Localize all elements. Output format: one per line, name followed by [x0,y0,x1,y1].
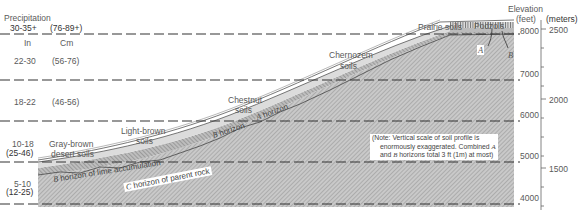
feet-tick-7000: 7000 [520,69,539,79]
vertical-scale-note: (Note: Vertical scale of soil profile is… [370,134,498,160]
chernozem-soils-label: soils [340,61,357,71]
feet-tick-5000: 5000 [520,151,539,161]
prairie-soils-label: Prairie soils [418,22,462,32]
precip-band-2-in: 22-30 [14,56,36,66]
precip-band-3-cm: (46-56) [52,97,79,107]
precip-band-1-in: 30-35+ [10,23,37,33]
podzols-label: Podzols [474,21,504,31]
meters-title: (meters) [546,14,578,24]
precip-band-5-cm: (12-25) [6,187,33,197]
precip-band-3-in: 18-22 [14,97,36,107]
podzol-b-label: B [508,50,513,60]
elevation-unit: (feet) [516,14,536,24]
desert-soils-label: desert soils [51,149,94,159]
feet-tick-8000: 8000 [520,26,539,36]
soil-profile-diagram [0,0,588,217]
light-brown-soil-label: Light-brown [121,126,165,136]
meter-tick-2500: 2500 [549,25,568,35]
chernozem-soil-label: Chernozem [329,50,373,60]
unit-cm-label: Cm [60,38,73,48]
feet-tick-4000: 4000 [520,193,539,203]
gray-brown-soil-label: Gray-brown [49,139,93,149]
podzol-a-label: A [477,45,484,55]
feet-tick-6000: 6000 [520,110,539,120]
precip-band-2-cm: (56-76) [52,56,79,66]
meter-tick-1500: 1500 [549,164,568,174]
meter-tick-2000: 2000 [549,95,568,105]
unit-in-label: In [24,38,31,48]
chestnut-soil-label: Chestnut [228,95,262,105]
precip-band-4-cm: (25-46) [6,148,33,158]
precip-band-1-cm: (76-89+) [50,23,82,33]
elevation-title: Elevation [508,4,543,14]
precipitation-title: Precipitation [4,13,51,23]
light-brown-soils-label: soils [136,136,153,146]
chestnut-soils-label: soils [235,105,252,115]
